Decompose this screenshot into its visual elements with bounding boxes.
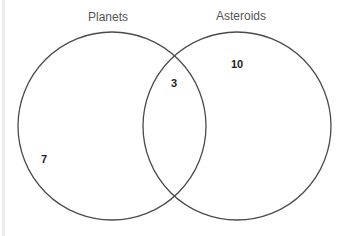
planets-only-count: 7 <box>41 153 47 165</box>
intersection-count: 3 <box>171 77 177 89</box>
asteroids-only-count: 10 <box>231 58 243 70</box>
asteroids-label: Asteroids <box>216 9 266 23</box>
venn-diagram <box>0 0 343 236</box>
planets-label: Planets <box>88 10 128 24</box>
planets-circle <box>18 32 206 220</box>
